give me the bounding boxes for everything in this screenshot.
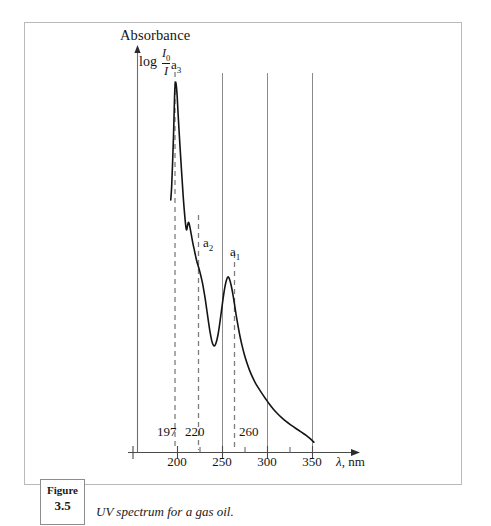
y-axis-label-log: log (139, 54, 157, 70)
figure-box-number: 3.5 (41, 498, 84, 515)
caption-divider (40, 484, 462, 485)
x-tick-label-200: 200 (163, 454, 191, 470)
peak-label-a3: a3 (171, 57, 181, 75)
uv-spectrum-chart: Absorbance log I0 I a3 a2 a1 197 220 260… (0, 0, 491, 526)
annotation-value-197: 197 (157, 424, 177, 440)
y-axis-label: log I0 I (139, 47, 172, 78)
annotation-lines (175, 72, 235, 450)
figure-caption-block: Figure 3.5 UV spectrum for a gas oil. (24, 484, 462, 526)
chart-title: Absorbance (120, 27, 190, 44)
figure-page: Absorbance log I0 I a3 a2 a1 197 220 260… (0, 0, 491, 526)
x-axis-label: λ, nm (336, 454, 365, 470)
annotation-value-260: 260 (239, 424, 259, 440)
x-tick-label-350: 350 (298, 454, 326, 470)
figure-caption-text: UV spectrum for a gas oil. (96, 504, 234, 520)
y-axis-label-denominator: I (162, 63, 170, 78)
spectrum-curve (171, 82, 314, 442)
figure-box-word: Figure (41, 484, 84, 498)
peak-label-a1: a1 (230, 244, 240, 262)
chart-canvas (0, 0, 491, 526)
figure-number-box: Figure 3.5 (40, 479, 85, 525)
peak-label-a2: a2 (203, 235, 213, 253)
gridlines (223, 73, 313, 452)
x-tick-label-300: 300 (253, 454, 281, 470)
annotation-value-220: 220 (185, 424, 205, 440)
x-tick-label-250: 250 (208, 454, 236, 470)
